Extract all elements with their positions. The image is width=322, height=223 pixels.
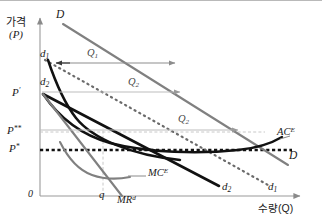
y-axis-title: 가격 (P) bbox=[6, 16, 26, 41]
curve-label-d2-top: d2 bbox=[40, 76, 49, 88]
curve-label-marginal-cost: MCE bbox=[148, 168, 168, 179]
span-label-q1: Q1 bbox=[87, 48, 98, 60]
curve-label-average-cost: ACE bbox=[277, 127, 295, 138]
price-tick-p-prime: P′ bbox=[12, 87, 20, 98]
x-axis-title: 수량(Q) bbox=[258, 203, 293, 215]
span-label-q2-lower: Q2 bbox=[178, 114, 189, 126]
curve-label-marginal-revenue: MRd bbox=[117, 195, 136, 206]
curve-label-demand-right: D bbox=[289, 150, 297, 162]
x-axis-title-text: 수량(Q) bbox=[258, 202, 293, 214]
price-tick-p-double-star: P** bbox=[7, 125, 21, 136]
y-axis-title-line1: 가격 bbox=[6, 16, 26, 28]
quantity-tick-q: q bbox=[99, 189, 105, 200]
curve-label-d1-bottom: d1 bbox=[268, 181, 277, 193]
curve-label-demand-top: D bbox=[56, 9, 64, 21]
axis-group bbox=[40, 18, 300, 196]
curve-label-d1-top: d1 bbox=[40, 48, 49, 60]
market-demand-line bbox=[63, 24, 288, 165]
price-tick-p-star: P* bbox=[9, 143, 19, 154]
marginal-revenue-line bbox=[43, 94, 122, 196]
y-axis-title-line2: (P) bbox=[6, 28, 26, 40]
origin-label: 0 bbox=[28, 189, 33, 199]
span-label-q2-upper: Q2 bbox=[128, 77, 139, 89]
curve-label-d2-bottom: d2 bbox=[222, 181, 231, 193]
economics-chart-figure: 가격 (P) 수량(Q) 0 P′ P** P* q D D d1 d2 d2 … bbox=[0, 0, 322, 223]
